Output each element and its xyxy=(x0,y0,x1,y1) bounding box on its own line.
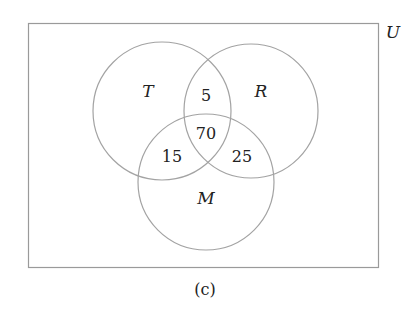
universe-label: U xyxy=(386,22,401,42)
region-t-r-m-count: 70 xyxy=(196,124,216,143)
set-t-label: T xyxy=(142,81,155,101)
region-r-m-count: 25 xyxy=(232,147,252,166)
universe-rectangle xyxy=(29,24,379,268)
venn-diagram: U T R M 5 70 15 25 (c) xyxy=(0,0,409,312)
region-t-m-count: 15 xyxy=(162,147,182,166)
region-t-r-count: 5 xyxy=(201,86,211,105)
figure-caption: (c) xyxy=(194,280,215,299)
set-r-label: R xyxy=(254,81,268,101)
set-m-label: M xyxy=(196,188,215,208)
